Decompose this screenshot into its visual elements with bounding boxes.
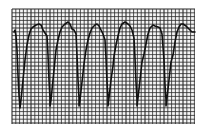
ecg-strip	[0, 0, 207, 132]
ecg-grid	[12, 9, 195, 124]
